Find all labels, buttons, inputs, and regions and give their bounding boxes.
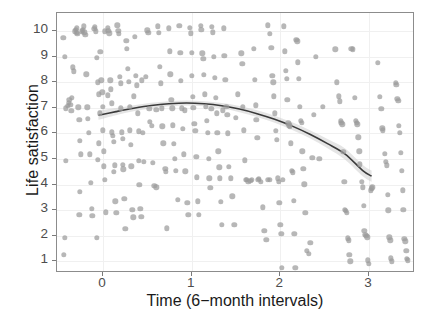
scatter-point: [133, 73, 138, 78]
scatter-point: [260, 204, 265, 209]
scatter-point: [223, 77, 228, 82]
scatter-point: [271, 94, 276, 99]
scatter-point: [173, 168, 178, 173]
scatter-point: [239, 61, 244, 66]
scatter-point: [125, 66, 130, 71]
scatter-point: [111, 139, 116, 144]
scatter-point: [163, 169, 168, 174]
scatter-point: [254, 117, 259, 122]
scatter-point: [83, 32, 88, 37]
scatter-point: [379, 106, 384, 111]
scatter-point: [130, 207, 135, 212]
scatter-point: [61, 252, 66, 257]
scatter-point: [233, 115, 238, 120]
y-tick-label: 2: [40, 226, 48, 241]
scatter-point: [313, 54, 318, 59]
scatter-point: [352, 95, 357, 100]
scatter-point: [366, 261, 371, 266]
scatter-point: [187, 25, 192, 30]
scatter-point: [190, 94, 195, 99]
scatter-point: [199, 27, 204, 32]
scatter-point: [188, 31, 193, 36]
scatter-point: [297, 104, 302, 109]
y-tick-label: 9: [40, 47, 48, 62]
scatter-point: [263, 237, 268, 242]
scatter-point: [317, 156, 322, 161]
scatter-point: [398, 150, 403, 155]
scatter-point: [262, 228, 267, 233]
scatter-point: [401, 207, 406, 212]
scatter-point: [253, 103, 258, 108]
scatter-point: [267, 31, 272, 36]
x-tick-label: 0: [98, 275, 106, 290]
scatter-point: [185, 212, 190, 217]
scatter-point: [166, 26, 171, 31]
scatter-point: [161, 140, 166, 145]
scatter-point: [291, 198, 296, 203]
scatter-point: [124, 46, 129, 51]
scatter-point: [384, 163, 389, 168]
scatter-point: [114, 210, 119, 215]
scatter-point: [131, 94, 136, 99]
scatter-point: [137, 182, 142, 187]
scatter-points: [57, 13, 413, 271]
scatter-point: [95, 157, 100, 162]
scatter-point: [134, 83, 139, 88]
scatter-point: [397, 130, 402, 135]
scatter-point: [100, 104, 105, 109]
scatter-point: [269, 45, 274, 50]
scatter-point: [123, 38, 128, 43]
y-tick-label: 10: [33, 21, 48, 36]
scatter-point: [334, 79, 339, 84]
scatter-point: [211, 54, 216, 59]
scatter-point: [281, 24, 286, 29]
scatter-point: [382, 151, 387, 156]
scatter-point: [251, 46, 256, 51]
chart-figure: Life satisfaction 12345678910 0123 Time …: [0, 0, 427, 325]
scatter-point: [112, 163, 117, 168]
scatter-point: [63, 158, 68, 163]
scatter-point: [302, 181, 307, 186]
scatter-point: [295, 59, 300, 64]
scatter-point: [116, 31, 121, 36]
scatter-point: [210, 30, 215, 35]
scatter-point: [278, 231, 283, 236]
scatter-point: [154, 107, 159, 112]
scatter-point: [347, 252, 352, 257]
scatter-point: [403, 248, 408, 253]
scatter-point: [230, 193, 235, 198]
scatter-point: [252, 77, 257, 82]
scatter-point: [356, 135, 361, 140]
scatter-point: [389, 259, 394, 264]
scatter-point: [119, 129, 124, 134]
scatter-point: [85, 116, 90, 121]
scatter-point: [194, 175, 199, 180]
x-tick-label: 3: [364, 275, 372, 290]
scatter-point: [274, 137, 279, 142]
scatter-point: [189, 73, 194, 78]
scatter-point: [341, 179, 346, 184]
scatter-point: [129, 163, 134, 168]
scatter-point: [217, 176, 222, 181]
scatter-point: [81, 24, 86, 29]
scatter-point: [219, 222, 224, 227]
scatter-point: [232, 222, 237, 227]
scatter-point: [177, 50, 182, 55]
y-tick-label: 6: [40, 123, 48, 138]
scatter-point: [118, 106, 123, 111]
scatter-point: [76, 117, 81, 122]
scatter-point: [103, 210, 108, 215]
scatter-point: [287, 124, 292, 129]
scatter-point: [110, 133, 115, 138]
scatter-point: [158, 81, 163, 86]
scatter-point: [77, 138, 82, 143]
scatter-point: [94, 235, 99, 240]
scatter-point: [405, 257, 410, 262]
scatter-point: [201, 72, 206, 77]
scatter-point: [164, 225, 169, 230]
scatter-point: [337, 99, 342, 104]
scatter-point: [215, 130, 220, 135]
scatter-point: [386, 208, 391, 213]
scatter-point: [84, 105, 89, 110]
scatter-point: [78, 152, 83, 157]
